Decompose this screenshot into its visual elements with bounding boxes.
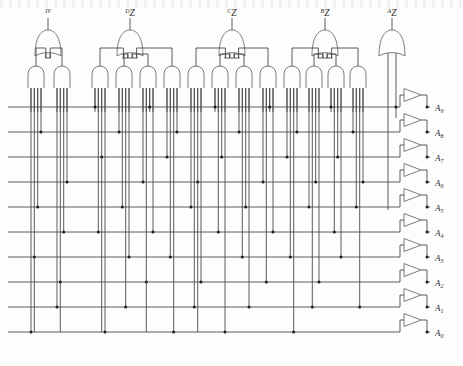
output-label-A0: A0: [434, 328, 444, 340]
junction-dot: [214, 106, 217, 109]
gate-label-text-2: DZ: [124, 8, 135, 19]
and-gate-3-2: [212, 66, 228, 88]
junction-dot: [248, 306, 251, 309]
junction-dot: [265, 281, 268, 284]
junction-dot: [362, 181, 365, 184]
inverter-4: [404, 164, 421, 177]
junction-dot: [314, 181, 317, 184]
and-gate-2-4: [164, 66, 180, 88]
and-gate-3-1: [188, 66, 204, 88]
junction-dot: [97, 231, 100, 234]
output-label-A4: A4: [434, 228, 444, 240]
and-gate-1-2: [54, 66, 70, 88]
junction-dot: [62, 231, 65, 234]
inverter-7: [404, 239, 421, 252]
junction-dot: [311, 306, 314, 309]
junction-dot: [30, 331, 33, 334]
output-terminal-dot: [426, 256, 429, 259]
inverter-6: [404, 214, 421, 227]
and-gate-2-1: [92, 66, 108, 88]
output-terminal-dot: [426, 181, 429, 184]
circuit-canvas: IVDZCZBZAZA9A8A7A6A5A4A3A2A1A0: [0, 0, 463, 366]
junction-dot: [355, 206, 358, 209]
or-gate-5: [379, 30, 405, 56]
junction-dot: [94, 106, 97, 109]
output-terminal-dot: [426, 106, 429, 109]
and-gate-4-2: [306, 66, 322, 88]
inverter-1: [404, 89, 421, 102]
or-gate-2: [117, 30, 143, 56]
junction-dot: [118, 131, 121, 134]
junction-dot: [121, 206, 124, 209]
or-gate-1: [35, 30, 61, 56]
junction-dot: [292, 331, 295, 334]
junction-dot: [352, 131, 355, 134]
output-label-A5: A5: [434, 203, 444, 215]
inverter-2: [404, 114, 421, 127]
junction-dot: [128, 256, 131, 259]
output-label-A7: A7: [434, 153, 445, 165]
junction-dot: [40, 131, 43, 134]
output-label-A6: A6: [434, 178, 444, 190]
output-terminal-dot: [426, 206, 429, 209]
inverter-8: [404, 264, 421, 277]
junction-dot: [172, 331, 175, 334]
and-gate-2-3: [140, 66, 156, 88]
output-terminal-dot: [426, 281, 429, 284]
logic-diagram-figure: IVDZCZBZAZA9A8A7A6A5A4A3A2A1A0: [0, 0, 463, 366]
junction-dot: [241, 256, 244, 259]
junction-dot: [272, 231, 275, 234]
junction-dot: [66, 181, 69, 184]
junction-dot: [169, 256, 172, 259]
inverter-3: [404, 139, 421, 152]
junction-dot: [308, 206, 311, 209]
junction-dot: [56, 306, 59, 309]
junction-dot: [152, 231, 155, 234]
output-terminal-dot: [426, 331, 429, 334]
junction-dot: [395, 106, 398, 109]
junction-dot: [224, 331, 227, 334]
output-terminal-dot: [426, 131, 429, 134]
junction-dot: [217, 231, 220, 234]
junction-dot: [200, 281, 203, 284]
inverter-9: [404, 289, 421, 302]
junction-dot: [268, 106, 271, 109]
junction-dot: [142, 181, 145, 184]
output-label-A3: A3: [434, 253, 444, 265]
output-label-A2: A2: [434, 278, 444, 290]
and-gate-1-1: [28, 66, 44, 88]
or-gate-3: [219, 30, 245, 56]
output-terminal-dot: [426, 156, 429, 159]
gate-label-text-5: AZ: [387, 8, 398, 19]
output-terminal-dot: [426, 306, 429, 309]
junction-dot: [238, 131, 241, 134]
and-gate-2-2: [116, 66, 132, 88]
junction-dot: [176, 131, 179, 134]
junction-dot: [333, 231, 336, 234]
and-gate-4-4: [350, 66, 366, 88]
output-label-A1: A1: [434, 303, 444, 315]
junction-dot: [358, 306, 361, 309]
gate-label-text-3: CZ: [227, 8, 237, 19]
junction-dot: [148, 106, 151, 109]
inverter-10: [404, 314, 421, 327]
output-label-A8: A8: [434, 128, 444, 140]
junction-dot: [296, 131, 299, 134]
or-gate-4: [312, 30, 338, 56]
output-terminal-dot: [426, 231, 429, 234]
and-gate-4-3: [328, 66, 344, 88]
junction-dot: [124, 306, 127, 309]
gate-label-text-4: BZ: [321, 8, 331, 19]
junction-dot: [330, 106, 333, 109]
output-label-A9: A9: [434, 103, 444, 115]
and-gate-3-4: [260, 66, 276, 88]
junction-dot: [286, 156, 289, 159]
junction-dot: [193, 306, 196, 309]
gate-label-text-1: IV: [44, 8, 52, 14]
junction-dot: [190, 206, 193, 209]
junction-dot: [36, 206, 39, 209]
inverter-5: [404, 189, 421, 202]
junction-dot: [336, 156, 339, 159]
junction-dot: [289, 256, 292, 259]
junction-dot: [104, 331, 107, 334]
